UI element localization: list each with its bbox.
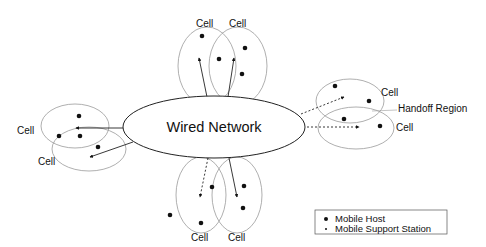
mobile-host-icon [168, 213, 173, 218]
mobile-host-icon [217, 57, 222, 62]
mobile-hosts-bottom [168, 184, 247, 226]
wireless-network-diagram: Cell Cell Cell Cell Handoff Region Cell … [0, 0, 486, 247]
cell-top-left: Cell [178, 18, 236, 105]
mobile-host-icon [210, 185, 215, 190]
wireless-link [200, 158, 208, 197]
cell-label: Cell [396, 122, 413, 133]
cell-label: Cell [229, 18, 246, 29]
wired-link [90, 142, 133, 157]
mobile-host-icon [199, 221, 204, 226]
cell-left-top: Cell [17, 104, 109, 148]
mobile-host-icon [367, 99, 372, 104]
mobile-host-icon [324, 217, 328, 221]
cell-label: Cell [38, 156, 55, 167]
cell-label: Cell [228, 232, 245, 243]
mobile-host-icon [200, 34, 205, 39]
wired-network: Wired Network [123, 96, 305, 158]
mobile-hosts-right [333, 84, 383, 129]
mobile-host-icon [78, 134, 83, 139]
cell-label: Cell [17, 125, 34, 136]
mobile-hosts-top [200, 34, 248, 77]
wireless-link [301, 97, 344, 114]
cell-top-right: Cell [209, 18, 267, 105]
handoff-region-label: Handoff Region [398, 103, 467, 114]
mobile-host-icon [378, 124, 383, 129]
mobile-host-icon [242, 184, 247, 189]
mobile-host-icon [241, 206, 246, 211]
mobile-host-icon [77, 114, 82, 119]
wired-network-label: Wired Network [166, 119, 262, 135]
legend-label: Mobile Support Station [335, 223, 431, 234]
wired-link [199, 58, 207, 97]
cell-right-top: Cell [316, 79, 398, 123]
wired-link [229, 158, 237, 197]
mobile-host-icon [342, 117, 347, 122]
mobile-host-icon [57, 134, 62, 139]
mobile-support-station-icon [325, 228, 327, 230]
mobile-host-icon [96, 145, 101, 150]
mobile-host-icon [240, 72, 245, 77]
cell-label: Cell [191, 232, 208, 243]
wired-link [228, 58, 234, 97]
cell-label: Cell [381, 87, 398, 98]
mobile-host-icon [243, 46, 248, 51]
mobile-host-icon [333, 84, 338, 89]
legend: Mobile Host Mobile Support Station [315, 210, 447, 234]
cell-label: Cell [196, 18, 213, 29]
